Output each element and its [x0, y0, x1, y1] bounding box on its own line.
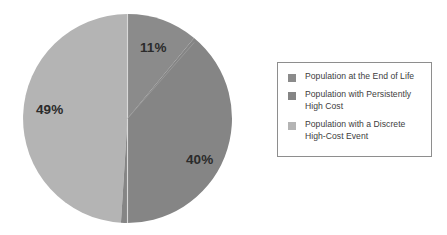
pie-svg [23, 14, 232, 223]
legend-item-end-of-life[interactable]: Population at the End of Life [288, 71, 425, 82]
pie-label-discrete-high-cost-event: 49% [36, 102, 63, 117]
legend-item-label: Population with a Discrete High-Cost Eve… [305, 119, 425, 142]
legend-swatch-icon [288, 122, 296, 130]
legend-item-label: Population with Persistently High Cost [305, 89, 425, 112]
pie-chart-figure: 11% 40% 49% Population at the End of Lif… [0, 0, 447, 235]
legend-item-persistently-high-cost[interactable]: Population with Persistently High Cost [288, 89, 425, 112]
legend-list: Population at the End of Life Population… [288, 71, 425, 142]
legend: Population at the End of Life Population… [277, 62, 432, 157]
legend-item-discrete-high-cost-event[interactable]: Population with a Discrete High-Cost Eve… [288, 119, 425, 142]
pie-chart-graphic: 11% 40% 49% [23, 14, 232, 223]
legend-swatch-icon [288, 74, 296, 82]
legend-item-label: Population at the End of Life [305, 71, 414, 82]
legend-swatch-icon [288, 92, 296, 100]
pie-label-end-of-life: 11% [140, 40, 167, 55]
pie-label-persistently-high-cost: 40% [186, 152, 213, 167]
pie-slice-discrete-high-cost-event[interactable] [23, 14, 127, 223]
